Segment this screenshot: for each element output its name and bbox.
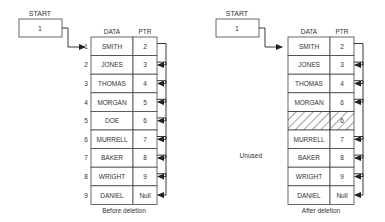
table-row: 3THOMAS4 xyxy=(84,74,157,93)
row-index: 3 xyxy=(84,80,88,87)
row-data: WRIGHT xyxy=(296,173,322,180)
row-data: MORGAN xyxy=(294,99,324,106)
table-row: 8WRIGHT9 xyxy=(84,167,157,186)
row-ptr: 9 xyxy=(143,173,147,180)
row-index: 7 xyxy=(84,154,88,161)
before-panel: START 1 DATA PTR 1SMITH22JONES33THOMAS44… xyxy=(19,10,166,214)
row-ptr: 4 xyxy=(143,80,147,87)
start-pointer-arrow xyxy=(62,28,85,47)
row-data: BAKER xyxy=(101,154,123,161)
row-ptr: 2 xyxy=(143,43,147,50)
row-index: 1 xyxy=(84,43,88,50)
row-index: 2 xyxy=(84,61,88,68)
row-ptr: 6 xyxy=(340,117,344,124)
after-panel: START 1 DATA PTR Unused SMITH2JONES3THOM… xyxy=(216,10,363,214)
pointer-arrow xyxy=(354,99,363,139)
before-table: 1SMITH22JONES33THOMAS44MORGAN55DOE66MURR… xyxy=(84,37,166,204)
table-row: 4MORGAN5 xyxy=(84,93,157,112)
table-row: WRIGHT9 xyxy=(288,167,354,186)
row-data: THOMAS xyxy=(98,80,126,87)
row-ptr: 9 xyxy=(340,173,344,180)
row-ptr: 3 xyxy=(340,61,344,68)
row-ptr: 6 xyxy=(340,99,344,106)
start-value: 1 xyxy=(38,25,42,32)
linked-list-deletion-diagram: START 1 DATA PTR 1SMITH22JONES33THOMAS44… xyxy=(0,0,385,222)
row-index: 6 xyxy=(84,136,88,143)
row-ptr: 7 xyxy=(143,136,147,143)
row-data: WRIGHT xyxy=(99,173,125,180)
table-row: 9DANIELNull xyxy=(84,186,157,205)
start-pointer-arrow xyxy=(259,28,282,47)
table-row: MURRELL7 xyxy=(288,130,354,149)
row-data: MORGAN xyxy=(97,99,127,106)
row-ptr: 2 xyxy=(340,43,344,50)
row-data: BAKER xyxy=(298,154,320,161)
row-index: 8 xyxy=(84,173,88,180)
table-row: SMITH2 xyxy=(288,37,354,56)
table-row: THOMAS4 xyxy=(288,74,354,93)
table-row: 6 xyxy=(288,111,354,130)
row-data: DOE xyxy=(105,117,120,124)
row-ptr: 8 xyxy=(340,154,344,161)
header-ptr: PTR xyxy=(336,28,349,35)
row-ptr: Null xyxy=(336,192,348,199)
row-data: DANIEL xyxy=(100,192,124,199)
after-table: SMITH2JONES3THOMAS4MORGAN66MURRELL7BAKER… xyxy=(288,37,363,204)
table-row: BAKER8 xyxy=(288,149,354,168)
start-value: 1 xyxy=(235,25,239,32)
row-index: 4 xyxy=(84,99,88,106)
row-data: JONES xyxy=(101,61,123,68)
row-ptr: 8 xyxy=(143,154,147,161)
table-row: DANIELNull xyxy=(288,186,354,205)
table-row: JONES3 xyxy=(288,56,354,75)
start-label: START xyxy=(226,10,249,17)
start-label: START xyxy=(29,10,52,17)
row-data: JONES xyxy=(298,61,320,68)
table-row: MORGAN6 xyxy=(288,93,354,112)
row-data: DANIEL xyxy=(297,192,321,199)
row-data: SMITH xyxy=(299,43,320,50)
row-ptr: 7 xyxy=(340,136,344,143)
row-index: 5 xyxy=(84,117,88,124)
unused-label: Unused xyxy=(240,152,263,159)
row-data: THOMAS xyxy=(295,80,323,87)
row-ptr: 5 xyxy=(143,99,147,106)
row-ptr: 4 xyxy=(340,80,344,87)
header-data: DATA xyxy=(104,28,121,35)
header-ptr: PTR xyxy=(139,28,152,35)
row-index: 9 xyxy=(84,192,88,199)
row-ptr: 6 xyxy=(143,117,147,124)
row-data: SMITH xyxy=(102,43,123,50)
table-row: 1SMITH2 xyxy=(84,37,157,56)
row-data: MURRELL xyxy=(96,136,127,143)
row-ptr: 3 xyxy=(143,61,147,68)
header-data: DATA xyxy=(301,28,318,35)
caption-after: After deletion xyxy=(302,207,341,214)
table-row: 6MURRELL7 xyxy=(84,130,157,149)
row-data: MURRELL xyxy=(293,136,324,143)
row-ptr: Null xyxy=(139,192,151,199)
table-row: 2JONES3 xyxy=(84,56,157,75)
data-cell xyxy=(288,111,330,130)
table-row: 7BAKER8 xyxy=(84,149,157,168)
caption-before: Before deletion xyxy=(102,207,146,214)
table-row: 5DOE6 xyxy=(84,111,157,130)
